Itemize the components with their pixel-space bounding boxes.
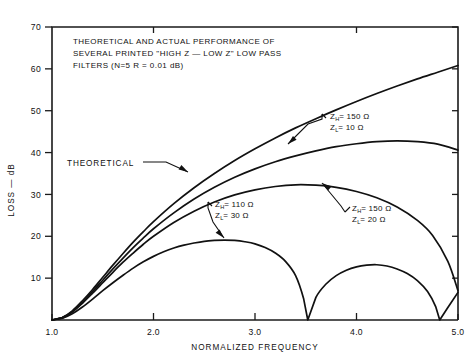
x-axis-tick-label: 3.0: [249, 327, 262, 337]
y-axis-tick-label: 30: [31, 190, 41, 200]
loss-vs-frequency-chart: 10203040506070 1.02.03.04.05.0 LOSS — dB…: [0, 0, 476, 361]
x-axis-tick-label: 2.0: [147, 327, 160, 337]
title-line-3: FILTERS (N=5 R = 0.01 dB): [73, 61, 184, 70]
y-axis-tick-label: 20: [31, 231, 41, 241]
y-axis-title: LOSS — dB: [7, 163, 16, 217]
y-axis-tick-label: 60: [31, 64, 41, 74]
y-axis-tick-label: 70: [31, 22, 41, 32]
z-value-2: = 10 Ω: [338, 123, 364, 132]
z-value-6: = 30 Ω: [223, 211, 249, 220]
annotation-zh150-zl20-line2: ZL= 20 Ω: [352, 215, 386, 225]
annotation-zh110-zl30-line2: ZL= 30 Ω: [215, 211, 249, 221]
y-axis-tick-label: 50: [31, 106, 41, 116]
x-axis-tick-label: 4.0: [350, 327, 363, 337]
z-value-1: = 150 Ω: [339, 112, 369, 121]
title-line-1: THEORETICAL AND ACTUAL PERFORMANCE OF: [73, 37, 275, 46]
z-value-4: = 20 Ω: [360, 215, 386, 224]
x-axis-title: NORMALIZED FREQUENCY: [191, 343, 318, 352]
x-axis-tick-label: 5.0: [452, 327, 465, 337]
chart-container: 10203040506070 1.02.03.04.05.0 LOSS — dB…: [0, 0, 476, 361]
z-value-3: = 150 Ω: [361, 204, 391, 213]
z-value-5: = 110 Ω: [224, 200, 254, 209]
annotation-zh150-zl10-line2: ZL= 10 Ω: [330, 123, 364, 133]
x-axis-tick-label: 1.0: [46, 327, 59, 337]
y-axis-tick-label: 10: [31, 273, 41, 283]
title-line-2: SEVERAL PRINTED "HIGH Z — LOW Z" LOW PAS…: [73, 49, 282, 58]
y-axis-tick-label: 40: [31, 148, 41, 158]
annotation-theoretical-label: THEORETICAL: [67, 159, 134, 168]
